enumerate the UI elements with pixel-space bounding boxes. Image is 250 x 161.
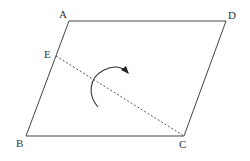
vertex-label-d: D	[228, 10, 236, 21]
vertex-label-c: C	[179, 139, 186, 150]
vertex-label-e: E	[44, 49, 51, 60]
curved-arrow-icon	[91, 67, 126, 107]
diagram-canvas	[0, 0, 250, 161]
arrowhead-icon	[121, 66, 129, 74]
vertex-label-b: B	[16, 138, 23, 149]
vertex-label-a: A	[59, 9, 67, 20]
parallelogram-abcd	[26, 21, 226, 136]
